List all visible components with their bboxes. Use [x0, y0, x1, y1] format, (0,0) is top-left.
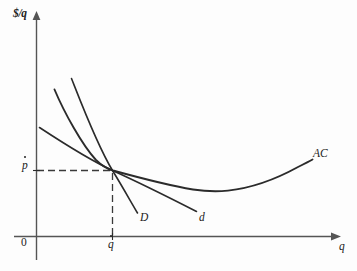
equilibrium-quantity-letter: q	[108, 238, 114, 250]
equilibrium-price-label: p	[22, 160, 28, 172]
market-demand-curve-label: D	[140, 212, 148, 224]
x-axis-label: q	[339, 241, 345, 253]
x-axis-group	[14, 232, 341, 240]
firm-demand-curve	[40, 128, 197, 212]
average-cost-curve	[55, 90, 313, 192]
plot-canvas	[0, 0, 357, 271]
y-axis-group	[33, 11, 41, 260]
firm-demand-curve-label: d	[199, 212, 205, 224]
tick-marks-group	[33, 171, 113, 241]
dashed-guides-group	[37, 171, 113, 237]
equilibrium-quantity-label: q	[108, 239, 114, 251]
origin-label: 0	[21, 237, 27, 249]
equilibrium-price-letter: p	[22, 159, 28, 171]
y-axis-arrow-icon	[33, 11, 41, 20]
market-demand-curve	[72, 79, 138, 214]
average-cost-curve-label: AC	[313, 148, 328, 160]
economics-figure: $/q q 0 p q AC D d	[0, 0, 357, 271]
y-axis-label: $/q	[13, 8, 27, 20]
